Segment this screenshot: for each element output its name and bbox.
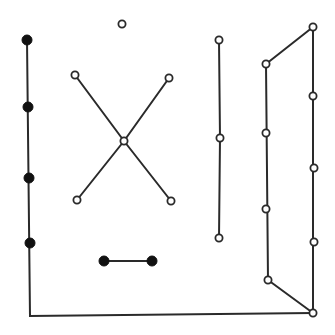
filled-vertex <box>25 238 35 248</box>
open-vertex <box>262 129 269 136</box>
edge <box>124 78 169 141</box>
edge <box>124 141 171 201</box>
open-vertex <box>73 196 80 203</box>
open-vertex <box>120 137 127 144</box>
edge <box>266 27 313 64</box>
open-vertex <box>310 238 317 245</box>
open-vertex <box>118 20 125 27</box>
open-vertex <box>264 276 271 283</box>
edge <box>75 75 124 141</box>
edge <box>219 138 220 238</box>
component-filled-pair <box>99 256 157 266</box>
filled-vertex <box>22 35 32 45</box>
open-vertex <box>71 71 78 78</box>
filled-vertex <box>23 102 33 112</box>
component-vertical-path <box>215 36 223 241</box>
open-vertex <box>215 234 222 241</box>
edge <box>77 141 124 200</box>
open-vertex <box>309 23 316 30</box>
edge <box>266 64 268 280</box>
filled-vertex <box>99 256 109 266</box>
component-star-x <box>71 71 174 204</box>
open-vertex <box>215 36 222 43</box>
edge <box>219 40 220 138</box>
graph-drawing <box>0 0 335 335</box>
edge <box>268 280 313 313</box>
open-vertex <box>262 60 269 67</box>
filled-vertex <box>24 173 34 183</box>
component-isolated-vertex <box>118 20 125 27</box>
open-vertex <box>262 205 269 212</box>
open-vertex <box>309 92 316 99</box>
open-vertex <box>310 164 317 171</box>
open-vertex <box>216 134 223 141</box>
component-right-cycle <box>262 23 317 316</box>
open-vertex <box>165 74 172 81</box>
graph-diagram <box>0 0 335 335</box>
open-vertex <box>309 309 316 316</box>
open-vertex <box>167 197 174 204</box>
filled-vertex <box>147 256 157 266</box>
